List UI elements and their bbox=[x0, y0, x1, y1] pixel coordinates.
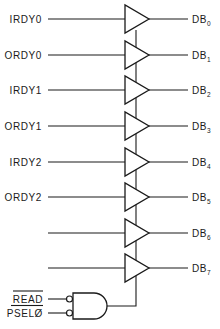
output-label: DB6 bbox=[192, 228, 211, 241]
and-gate-icon bbox=[73, 293, 107, 319]
inversion-bubble-icon bbox=[67, 310, 73, 316]
buffer-row-5: ORDY2 DB5 bbox=[5, 183, 212, 211]
buffer-triangle-icon bbox=[125, 219, 149, 247]
output-label: DB5 bbox=[192, 192, 211, 205]
read-label: READ bbox=[13, 294, 43, 305]
buffer-triangle-icon bbox=[125, 183, 149, 211]
buffer-row-1: ORDY0 DB1 bbox=[5, 41, 212, 69]
buffer-row-6: DB6 bbox=[48, 219, 211, 247]
input-label: IRDY0 bbox=[10, 14, 42, 25]
buffer-triangle-icon bbox=[125, 254, 149, 282]
output-label: DB4 bbox=[192, 157, 211, 170]
buffer-row-4: IRDY2 DB4 bbox=[10, 148, 212, 176]
buffer-row-3: ORDY1 DB3 bbox=[5, 112, 212, 140]
buffer-triangle-icon bbox=[125, 148, 149, 176]
buffer-row-2: IRDY1 DB2 bbox=[10, 76, 212, 104]
output-label: DB7 bbox=[192, 263, 211, 276]
buffer-triangle-icon bbox=[125, 112, 149, 140]
buffer-row-0: IRDY0 DB0 bbox=[10, 5, 212, 33]
buffer-triangle-icon bbox=[125, 5, 149, 33]
input-label: ORDY2 bbox=[5, 192, 42, 203]
input-label: ORDY0 bbox=[5, 50, 42, 61]
input-label: IRDY1 bbox=[10, 85, 42, 96]
output-label: DB2 bbox=[192, 85, 211, 98]
buffer-row-7: DB7 bbox=[48, 254, 211, 282]
output-label: DB0 bbox=[192, 14, 211, 27]
output-label: DB3 bbox=[192, 121, 211, 134]
circuit-diagram: IRDY0 DB0 ORDY0 DB1 IRDY1 DB2 ORDY1 DB3 … bbox=[0, 0, 220, 329]
buffer-triangle-icon bbox=[125, 41, 149, 69]
buffer-triangle-icon bbox=[125, 76, 149, 104]
input-label: ORDY1 bbox=[5, 121, 42, 132]
input-label: IRDY2 bbox=[10, 157, 42, 168]
psel-label: PSELØ bbox=[7, 308, 43, 319]
output-label: DB1 bbox=[192, 50, 211, 63]
enable-and-gate: READ PSELØ bbox=[7, 291, 108, 319]
inversion-bubble-icon bbox=[67, 296, 73, 302]
